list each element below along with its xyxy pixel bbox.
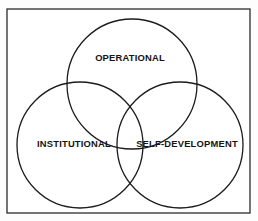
label-operational: OPERATIONAL xyxy=(95,52,165,63)
venn-diagram-container: OPERATIONAL INSTITUTIONAL SELF-DEVELOPME… xyxy=(0,0,258,221)
label-institutional: INSTITUTIONAL xyxy=(37,138,111,149)
label-self-development: SELF-DEVELOPMENT xyxy=(136,138,238,149)
venn-diagram-svg: OPERATIONAL INSTITUTIONAL SELF-DEVELOPME… xyxy=(0,0,258,221)
